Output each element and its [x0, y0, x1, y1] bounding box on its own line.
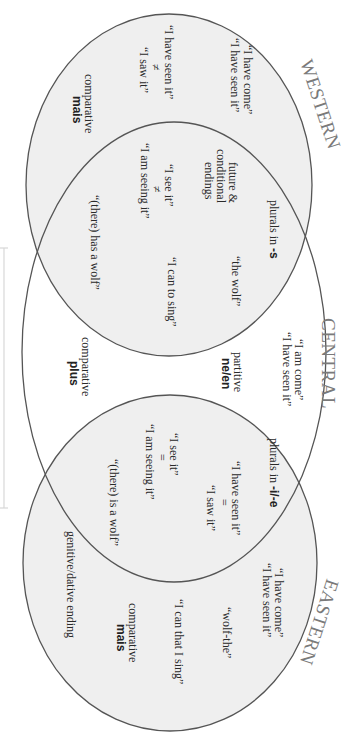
left-bracket — [0, 248, 8, 508]
western-perfect-line2: “I have seen it” — [228, 38, 242, 112]
ce-past-eq: = — [217, 499, 231, 506]
central-partitive-word: ne/en — [219, 358, 233, 389]
western-past-line2: “I saw it” — [137, 47, 151, 93]
eastern-article: “wolf-the” — [220, 607, 234, 658]
western-perfect-line1: “I have come” — [241, 45, 255, 114]
western-comparative-word: mais — [70, 96, 84, 124]
wc-progressive-line2: “I am seeing it” — [138, 143, 152, 219]
ce-plurals: plurals in -i/-e — [267, 438, 281, 508]
eastern-perfect-line2: “I have seen it” — [260, 563, 274, 637]
wc-plurals: plurals in -s — [267, 200, 281, 259]
western-past-line1: “I have seen it” — [162, 25, 176, 99]
eastern-infinitive: “I can that I sing” — [172, 599, 186, 684]
wc-infinitive: “I can to sing” — [165, 257, 179, 327]
wc-existential: “(there) has a wolf” — [88, 195, 102, 290]
wc-article: “the wolf” — [229, 256, 243, 306]
wc-future-line3: endings — [202, 162, 216, 200]
venn-diagram: WESTERN CENTRAL EASTERN “I have come” “I… — [0, 0, 354, 741]
ce-past-line2: “I saw it” — [204, 485, 218, 531]
eastern-case-ending: genitive/dative ending — [64, 531, 78, 638]
central-perfect-line2: “I have seen it” — [280, 332, 294, 406]
eastern-comparative-word: mais — [114, 624, 128, 652]
ce-progressive-line2: “I am seeing it” — [143, 424, 157, 500]
central-comparative-word: plus — [67, 361, 81, 386]
central-title: CENTRAL — [318, 318, 339, 409]
ce-existential: “(there) is a wolf” — [107, 459, 121, 546]
